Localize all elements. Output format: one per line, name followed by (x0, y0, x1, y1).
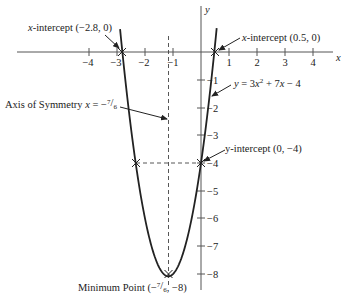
svg-text:−8: −8 (207, 269, 218, 280)
equation-arrow (212, 85, 231, 96)
axis-of-symmetry-label: Axis of Symmetry x = −7/6 (5, 97, 117, 111)
x-intercept-right-label: x-intercept (0.5, 0) (241, 32, 321, 44)
svg-text:−7: −7 (207, 241, 218, 252)
x-axis-label: x (335, 52, 341, 63)
svg-text:1: 1 (226, 57, 231, 68)
equation-label: y = 3x2 + 7x − 4 (233, 77, 302, 89)
svg-text:4: 4 (310, 57, 316, 68)
x-tick-labels: −4 −3 −2 −1 1 2 3 4 (82, 57, 316, 68)
svg-text:2: 2 (254, 57, 259, 68)
svg-text:−4: −4 (207, 158, 219, 169)
svg-text:−2: −2 (138, 57, 149, 68)
axis-of-symmetry-arrow (120, 107, 167, 119)
y-axis-label: y (204, 4, 210, 15)
svg-text:−3: −3 (110, 57, 121, 68)
svg-text:−3: −3 (207, 130, 218, 141)
svg-text:−5: −5 (207, 186, 218, 197)
x-intercept-left-label: x-intercept (−2.8, 0) (27, 22, 113, 34)
svg-text:−1: −1 (167, 57, 178, 68)
parabola-chart: x y −4 −3 −2 −1 1 2 3 4 −1 −2 −3 −4 − (0, 0, 345, 296)
svg-text:−4: −4 (82, 57, 94, 68)
x-intercept-left-arrow (105, 35, 119, 48)
svg-text:−6: −6 (207, 213, 218, 224)
svg-text:3: 3 (282, 57, 287, 68)
y-intercept-label: y-intercept (0, −4) (225, 143, 302, 155)
minimum-point-label: Minimum Point (−7/6, −8) (78, 280, 187, 294)
